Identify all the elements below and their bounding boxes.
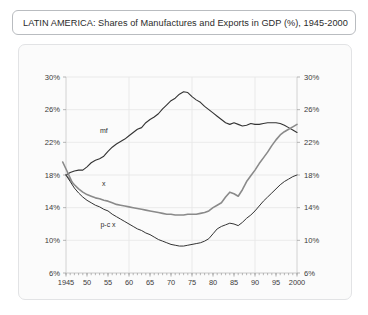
page-title: LATIN AMERICA: Shares of Manufactures an…	[23, 18, 348, 28]
chart-title-box: LATIN AMERICA: Shares of Manufactures an…	[12, 10, 356, 35]
chart-screenshot: LATIN AMERICA: Shares of Manufactures an…	[0, 0, 368, 315]
chart-panel	[18, 44, 352, 300]
